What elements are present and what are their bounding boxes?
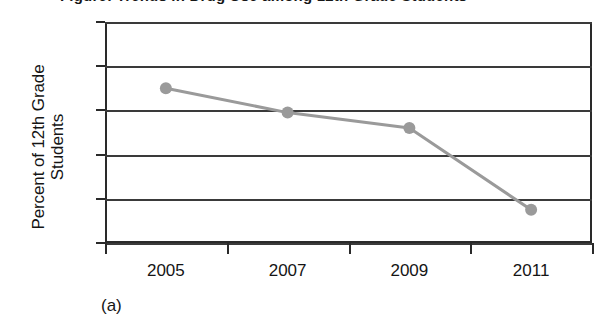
- y-tick-mark-20: [96, 242, 105, 244]
- figure-title-text: Figure: Trends in Drug Use among 12th Gr…: [0, 0, 607, 5]
- data-point-2005[interactable]: [160, 82, 172, 94]
- x-tick-label-2011: 2011: [471, 261, 591, 281]
- y-axis-title: Percent of 12th Grade Students: [24, 22, 72, 272]
- data-point-2011[interactable]: [525, 204, 537, 216]
- series-group: [105, 22, 592, 243]
- data-point-2009[interactable]: [403, 122, 415, 134]
- x-tick-mark-0: [105, 243, 107, 254]
- figure-title-clipped: Figure: Trends in Drug Use among 12th Gr…: [0, 0, 607, 5]
- y-axis-title-line-2: Students: [48, 114, 67, 180]
- y-axis-title-line-1: Percent of 12th Grade: [29, 64, 48, 229]
- x-tick-mark-1: [227, 243, 229, 254]
- x-tick-label-2005: 2005: [106, 261, 226, 281]
- x-tick-label-2007: 2007: [228, 261, 348, 281]
- data-point-2007[interactable]: [282, 107, 294, 119]
- y-tick-mark-28: [96, 65, 105, 67]
- x-tick-mark-3: [470, 243, 472, 254]
- y-tick-mark-24: [96, 154, 105, 156]
- plot-area: 202224262830 2005200720092011: [105, 22, 592, 243]
- x-tick-mark-4: [592, 243, 594, 254]
- y-tick-mark-22: [96, 198, 105, 200]
- x-tick-mark-2: [349, 243, 351, 254]
- subfigure-caption: (a): [101, 296, 122, 316]
- figure-container: Figure: Trends in Drug Use among 12th Gr…: [0, 0, 607, 333]
- y-tick-mark-26: [96, 109, 105, 111]
- y-tick-mark-30: [96, 21, 105, 23]
- x-tick-label-2009: 2009: [349, 261, 469, 281]
- series-line-0: [166, 88, 531, 210]
